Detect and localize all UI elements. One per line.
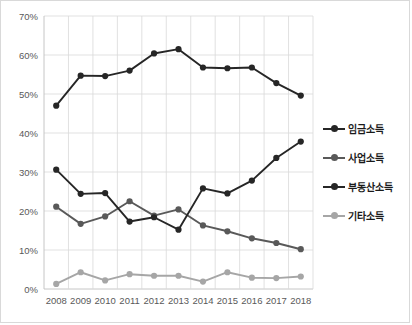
data-point [273,155,279,161]
data-point [102,213,108,219]
data-series-group [53,46,304,287]
data-point [224,228,230,234]
data-point [78,221,84,227]
data-point [298,92,304,98]
legend-item-other-income[interactable]: 기타소득 [323,201,411,230]
data-point [224,190,230,196]
x-axis-tick-label: 2008 [46,295,67,306]
legend-marker-icon [323,181,345,193]
data-point [298,138,304,144]
y-axis-tick-label: 40% [19,128,39,139]
y-axis-tick-label: 70% [19,11,39,22]
gridlines [44,16,313,289]
data-point [151,50,157,56]
x-axis-tick-label: 2018 [290,295,311,306]
y-axis-tick-label: 30% [19,167,39,178]
legend-dot-icon [331,154,338,161]
legend-marker-icon [323,152,345,164]
legend-dot-icon [331,125,338,132]
data-point [249,64,255,70]
y-axis-tick-label: 10% [19,245,39,256]
legend-dot-icon [331,183,338,190]
data-point [102,73,108,79]
data-point [175,46,181,52]
data-point [249,177,255,183]
data-point [249,235,255,241]
y-axis-tick-label: 0% [24,284,38,295]
chart-legend: 임금소득 사업소득 부동산소득 기타소득 [323,114,411,230]
x-axis-tick-label: 2011 [119,295,139,306]
data-point [200,64,206,70]
data-point [151,214,157,220]
data-point [102,277,108,283]
legend-label: 부동산소득 [348,179,393,194]
x-axis-tick-label: 2016 [241,295,262,306]
y-axis-tick-label: 20% [19,206,39,217]
data-point [175,206,181,212]
data-point [102,190,108,196]
series-2 [53,198,304,252]
data-point [78,269,84,275]
x-axis-tick-label: 2017 [266,295,287,306]
legend-item-wage-income[interactable]: 임금소득 [323,114,411,143]
data-point [78,191,84,197]
data-point [200,185,206,191]
series-4 [53,269,304,287]
data-point [298,273,304,279]
data-point [175,227,181,233]
data-point [53,103,59,109]
x-axis-tick-label: 2015 [217,295,238,306]
chart-container: 0%10%20%30%40%50%60%70% 2008200920102011… [0,0,410,323]
data-point [126,271,132,277]
data-point [249,275,255,281]
data-point [200,222,206,228]
y-axis-tick-labels: 0%10%20%30%40%50%60%70% [19,11,39,295]
x-axis-tick-label: 2013 [168,295,189,306]
data-point [175,273,181,279]
legend-label: 기타소득 [348,208,384,223]
data-point [298,246,304,252]
data-point [273,275,279,281]
data-point [126,198,132,204]
data-point [53,281,59,287]
legend-item-real-estate-income[interactable]: 부동산소득 [323,172,411,201]
x-axis-tick-labels: 2008200920102011201220132014201520162017… [46,295,312,306]
y-axis-tick-label: 50% [19,89,39,100]
x-axis-tick-label: 2012 [143,295,164,306]
data-point [126,68,132,74]
legend-item-business-income[interactable]: 사업소득 [323,143,411,172]
data-point [53,204,59,210]
legend-marker-icon [323,123,345,135]
legend-marker-icon [323,210,345,222]
data-point [53,167,59,173]
data-point [273,240,279,246]
x-axis-tick-label: 2009 [70,295,91,306]
data-point [126,218,132,224]
data-point [224,269,230,275]
data-point [224,65,230,71]
series-1 [53,46,304,109]
legend-label: 사업소득 [348,150,384,165]
legend-label: 임금소득 [348,121,384,136]
series-3 [53,138,304,232]
y-axis-tick-label: 60% [19,50,39,61]
data-point [151,273,157,279]
data-point [200,278,206,284]
data-point [78,73,84,79]
x-axis-tick-label: 2014 [192,295,213,306]
legend-dot-icon [331,212,338,219]
x-axis-tick-label: 2010 [95,295,116,306]
data-point [273,80,279,86]
